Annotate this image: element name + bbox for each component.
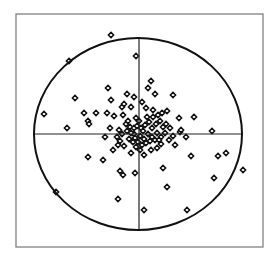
data-point-marker [131, 94, 136, 99]
data-point-marker [164, 184, 169, 189]
data-point-marker [100, 157, 105, 162]
data-point-marker [162, 130, 167, 135]
data-point-marker [209, 128, 214, 133]
data-point-marker [81, 110, 86, 115]
data-point-marker [167, 125, 172, 130]
data-point-marker [188, 153, 193, 158]
data-point-marker [121, 101, 126, 106]
data-point-marker [172, 142, 177, 147]
data-point-marker [145, 85, 150, 90]
data-point-marker [170, 92, 175, 97]
data-point-marker [150, 107, 155, 112]
data-point-marker [133, 53, 138, 58]
data-point-marker [184, 207, 189, 212]
data-point-marker [148, 147, 153, 152]
data-point-marker [120, 172, 125, 177]
data-point-marker [211, 175, 216, 180]
data-point-marker [183, 134, 188, 139]
data-point-marker [141, 207, 146, 212]
data-point-marker [223, 150, 228, 155]
data-point-marker [149, 125, 154, 130]
data-point-marker [105, 85, 110, 90]
data-point-marker [159, 110, 164, 115]
data-point-marker [166, 137, 171, 142]
data-point-marker [133, 144, 138, 149]
data-point-marker [141, 152, 146, 157]
data-point-marker [240, 167, 245, 172]
data-point-marker [108, 32, 113, 37]
data-point-marker [154, 145, 159, 150]
data-point-marker [107, 125, 112, 130]
data-point-marker [157, 118, 162, 123]
data-point-marker [124, 91, 129, 96]
data-point-marker [176, 115, 181, 120]
scatter-chart [0, 0, 278, 260]
data-point-marker [85, 154, 90, 159]
data-point-marker [152, 91, 157, 96]
data-point-marker [178, 127, 183, 132]
data-point-marker [128, 150, 133, 155]
data-point-marker [154, 130, 159, 135]
data-point-marker [41, 111, 46, 116]
data-point-marker [93, 110, 98, 115]
data-point-marker [156, 137, 161, 142]
data-point-marker [86, 121, 91, 126]
data-point-marker [140, 128, 145, 133]
data-point-marker [144, 114, 149, 119]
data-point-marker [104, 110, 109, 115]
data-point-marker [115, 142, 120, 147]
data-point-marker [120, 112, 125, 117]
data-point-marker [102, 134, 107, 139]
data-point-marker [160, 165, 165, 170]
data-point-marker [121, 143, 126, 148]
data-point-marker [215, 153, 220, 158]
data-point-marker [115, 196, 120, 201]
data-point-marker [163, 121, 168, 126]
data-point-marker [191, 114, 196, 119]
data-point-marker [110, 147, 115, 152]
data-point-marker [147, 138, 152, 143]
data-point-marker [108, 97, 113, 102]
data-point-marker [128, 130, 133, 135]
data-point-marker [139, 99, 144, 104]
data-point-marker [72, 95, 77, 100]
data-point-marker [128, 104, 133, 109]
data-point-marker [125, 118, 130, 123]
data-point-marker [114, 134, 119, 139]
data-point-marker [111, 113, 116, 118]
data-point-marker [143, 105, 148, 110]
data-point-marker [116, 127, 121, 132]
data-point-marker [148, 78, 153, 83]
data-point-marker [132, 170, 137, 175]
data-point-marker [64, 125, 69, 130]
